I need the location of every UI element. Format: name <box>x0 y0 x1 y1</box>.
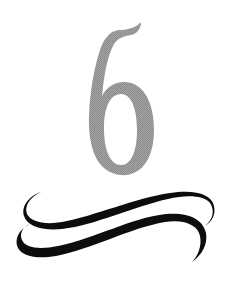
chapter-number-ornament: 6 <box>0 0 232 282</box>
double-swash-flourish-icon <box>0 0 232 282</box>
